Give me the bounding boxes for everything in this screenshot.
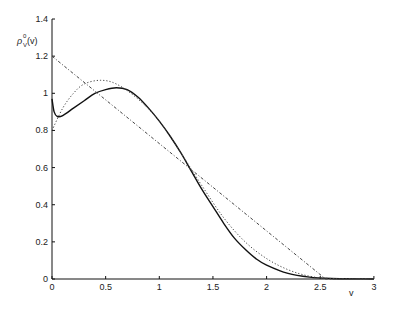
x-tick-label: 3 (371, 282, 376, 292)
series-group (52, 56, 374, 279)
x-tick-label: 1.5 (207, 282, 220, 292)
y-tick-label: 0.2 (35, 237, 48, 247)
y-tick-label: 0.4 (35, 200, 48, 210)
y-axis-label-arg: (v) (27, 36, 38, 46)
axis-labels: v ρ 0 V (v) (16, 33, 354, 298)
series-solid-line (52, 88, 374, 279)
y-tick-label: 0.8 (35, 125, 48, 135)
series-dash-dot-line (52, 56, 374, 279)
y-tick-label: 1 (43, 88, 48, 98)
x-tick-label: 2 (264, 282, 269, 292)
x-tick-label: 0 (49, 282, 54, 292)
series-dotted-line (52, 80, 374, 279)
x-tick-label: 0.5 (99, 282, 112, 292)
x-axis-label: v (349, 288, 354, 298)
y-axis-label: ρ 0 V (v) (16, 33, 38, 48)
y-tick-label: 1.2 (35, 51, 48, 61)
axes: 00.511.522.5300.20.40.60.811.21.4 (35, 14, 376, 292)
y-axis-label-rho: ρ (16, 36, 22, 46)
x-tick-label: 1 (157, 282, 162, 292)
y-tick-label: 1.4 (35, 14, 48, 24)
x-tick-label: 2.5 (314, 282, 327, 292)
y-tick-label: 0 (43, 274, 48, 284)
line-chart: 00.511.522.5300.20.40.60.811.21.4 v ρ 0 … (0, 0, 395, 311)
y-tick-label: 0.6 (35, 163, 48, 173)
